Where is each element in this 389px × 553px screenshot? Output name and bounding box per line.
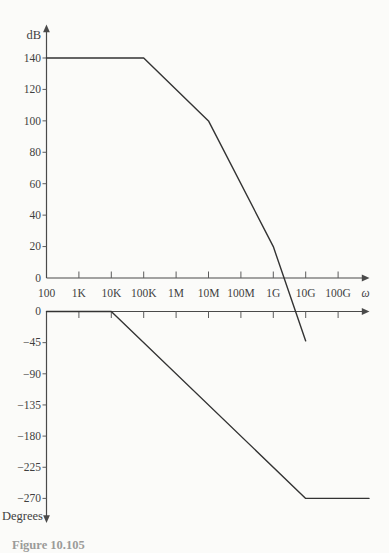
freq-tick-label: 100G (325, 287, 351, 299)
freq-tick-label: 10M (198, 287, 220, 299)
omega-axis-label: ω (361, 287, 369, 299)
db-tick-label: 80 (30, 146, 42, 158)
right-arrow-bottom-icon (362, 308, 370, 315)
degrees-axis-label: Degrees (2, 509, 43, 523)
db-tick-label: 60 (30, 178, 42, 190)
db-tick-label: 140 (24, 52, 42, 64)
freq-tick-label: 10K (101, 287, 122, 299)
right-arrow-top-icon (362, 275, 370, 282)
db-tick-label: 20 (30, 240, 42, 252)
freq-tick-label: 100 (38, 287, 56, 299)
db-tick-label: 120 (24, 83, 42, 95)
freq-tick-label: 1K (72, 287, 87, 299)
deg-tick-label: −225 (17, 461, 41, 473)
deg-tick-label: −90 (23, 368, 41, 380)
db-axis-label: dB (26, 28, 41, 42)
freq-tick-label: 10G (296, 287, 316, 299)
deg-tick-label: −270 (17, 492, 41, 504)
deg-tick-label: −135 (17, 399, 41, 411)
deg-tick-label: 0 (35, 305, 41, 317)
freq-tick-label: 100M (227, 287, 254, 299)
figure-caption: Figure 10.105 (12, 538, 85, 553)
db-tick-label: 40 (30, 209, 42, 221)
db-tick-label: 100 (24, 115, 42, 127)
deg-tick-label: −180 (17, 430, 41, 442)
freq-tick-label: 1G (266, 287, 280, 299)
phase-curve (47, 312, 370, 499)
freq-tick-label: 100K (131, 287, 157, 299)
down-arrow-icon (43, 515, 50, 523)
deg-tick-label: −45 (23, 336, 41, 348)
db-tick-label: 0 (35, 272, 41, 284)
up-arrow-icon (43, 25, 50, 33)
freq-tick-label: 1M (168, 287, 184, 299)
